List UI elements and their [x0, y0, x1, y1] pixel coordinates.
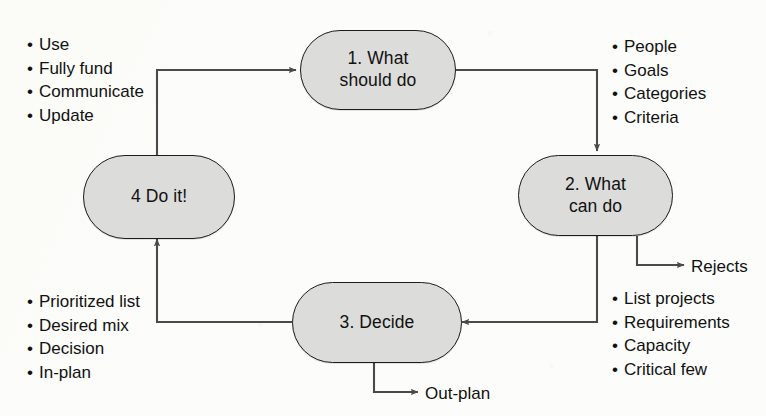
bullet-icon: • — [27, 80, 39, 104]
edge-step3-to-step4 — [157, 239, 292, 322]
list-item: •Capacity — [612, 334, 730, 358]
list-item-label: Communicate — [39, 82, 144, 101]
node-step1-label: 1. What should do — [340, 48, 417, 92]
node-step2[interactable]: 2. What can do — [518, 155, 673, 236]
list-item: •Requirements — [612, 311, 730, 335]
list-item-label: Goals — [624, 61, 668, 80]
bullet-icon: • — [27, 361, 39, 385]
bullet-icon: • — [27, 314, 39, 338]
node-step4[interactable]: 4 Do it! — [83, 155, 235, 239]
node-step2-label: 2. What can do — [565, 174, 626, 218]
edge-label-out-plan: Out-plan — [425, 385, 490, 402]
list-item-label: Capacity — [624, 336, 690, 355]
bullet-icon: • — [612, 358, 624, 382]
bullets-top-right: •People •Goals •Categories •Criteria — [612, 35, 706, 129]
bullet-icon: • — [612, 106, 624, 130]
bullet-icon: • — [27, 290, 39, 314]
list-item: •Decision — [27, 337, 140, 361]
list-item: •Desired mix — [27, 314, 140, 338]
node-step1[interactable]: 1. What should do — [300, 30, 456, 110]
bullet-icon: • — [27, 104, 39, 128]
list-item: •People — [612, 35, 706, 59]
diagram-canvas: 1. What should do 2. What can do 3. Deci… — [0, 0, 766, 416]
bullet-icon: • — [27, 33, 39, 57]
edge-step4-to-step1 — [157, 70, 296, 155]
list-item: •Goals — [612, 59, 706, 83]
edge-label-rejects: Rejects — [691, 258, 748, 275]
list-item-label: Desired mix — [39, 316, 129, 335]
list-item: •Categories — [612, 82, 706, 106]
bullets-bottom-left: •Prioritized list •Desired mix •Decision… — [27, 290, 140, 384]
list-item: •Communicate — [27, 80, 144, 104]
list-item: •List projects — [612, 287, 730, 311]
list-item-label: In-plan — [39, 363, 91, 382]
node-step4-label: 4 Do it! — [131, 186, 187, 208]
list-item-label: Update — [39, 106, 94, 125]
list-item-label: Prioritized list — [39, 292, 140, 311]
bullet-icon: • — [612, 35, 624, 59]
list-item-label: Decision — [39, 339, 104, 358]
list-item: •Fully fund — [27, 57, 144, 81]
node-step3[interactable]: 3. Decide — [292, 282, 462, 363]
edge-step2-to-rejects — [637, 236, 684, 265]
node-step3-label: 3. Decide — [340, 312, 415, 334]
list-item: •Update — [27, 104, 144, 128]
edge-step1-to-step2 — [456, 70, 597, 151]
list-item-label: People — [624, 37, 677, 56]
bullet-icon: • — [612, 59, 624, 83]
list-item: •Criteria — [612, 106, 706, 130]
list-item: •In-plan — [27, 361, 140, 385]
list-item-label: Critical few — [624, 360, 707, 379]
bullets-bottom-right: •List projects •Requirements •Capacity •… — [612, 287, 730, 381]
list-item-label: List projects — [624, 289, 715, 308]
list-item-label: Criteria — [624, 108, 679, 127]
edge-step3-to-outplan — [374, 363, 418, 392]
list-item-label: Use — [39, 35, 69, 54]
bullet-icon: • — [27, 337, 39, 361]
bullets-top-left: •Use •Fully fund •Communicate •Update — [27, 33, 144, 127]
list-item-label: Fully fund — [39, 59, 113, 78]
list-item: •Prioritized list — [27, 290, 140, 314]
list-item: •Critical few — [612, 358, 730, 382]
list-item-label: Requirements — [624, 313, 730, 332]
bullet-icon: • — [27, 57, 39, 81]
bullet-icon: • — [612, 287, 624, 311]
list-item-label: Categories — [624, 84, 706, 103]
bullet-icon: • — [612, 311, 624, 335]
list-item: •Use — [27, 33, 144, 57]
bullet-icon: • — [612, 82, 624, 106]
edge-step2-to-step3 — [462, 236, 597, 322]
bullet-icon: • — [612, 334, 624, 358]
